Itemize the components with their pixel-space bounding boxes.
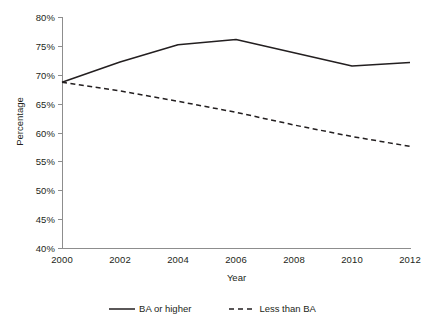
x-axis-tick-label: 2000 bbox=[51, 254, 73, 265]
series-svg bbox=[62, 17, 410, 248]
x-axis-tick-label: 2012 bbox=[399, 254, 421, 265]
x-axis-title: Year bbox=[62, 272, 411, 283]
y-axis-tick-label: 65% bbox=[36, 99, 55, 110]
y-axis-tick-label: 45% bbox=[36, 214, 55, 225]
y-axis-tick-label: 80% bbox=[36, 12, 55, 23]
y-axis-tick-label: 55% bbox=[36, 156, 55, 167]
x-axis-tick-label: 2002 bbox=[109, 254, 131, 265]
x-axis-tick-label: 2004 bbox=[167, 254, 189, 265]
x-axis-tick-label: 2010 bbox=[341, 254, 363, 265]
legend-item[interactable]: BA or higher bbox=[109, 303, 191, 314]
legend-line-swatch bbox=[229, 305, 255, 313]
plot-area bbox=[62, 17, 410, 248]
legend-line-swatch bbox=[109, 305, 135, 313]
x-axis-line bbox=[62, 248, 411, 249]
y-axis-tick-label: 50% bbox=[36, 185, 55, 196]
y-axis-title: Percentage bbox=[14, 67, 25, 177]
chart-legend: BA or higherLess than BA bbox=[0, 303, 425, 314]
y-axis-tick-label: 60% bbox=[36, 128, 55, 139]
y-axis-tick-label: 40% bbox=[36, 243, 55, 254]
legend-item-label: BA or higher bbox=[139, 303, 191, 314]
line-chart-figure: 40%45%50%55%60%65%70%75%80% 200020022004… bbox=[0, 0, 425, 329]
x-axis-tick-label: 2008 bbox=[283, 254, 305, 265]
y-axis-tick-label: 70% bbox=[36, 70, 55, 81]
series-line bbox=[62, 40, 410, 83]
series-line bbox=[62, 82, 410, 146]
legend-item[interactable]: Less than BA bbox=[229, 303, 316, 314]
y-axis-tick-label: 75% bbox=[36, 41, 55, 52]
x-axis-tick-label: 2006 bbox=[225, 254, 247, 265]
legend-item-label: Less than BA bbox=[259, 303, 316, 314]
